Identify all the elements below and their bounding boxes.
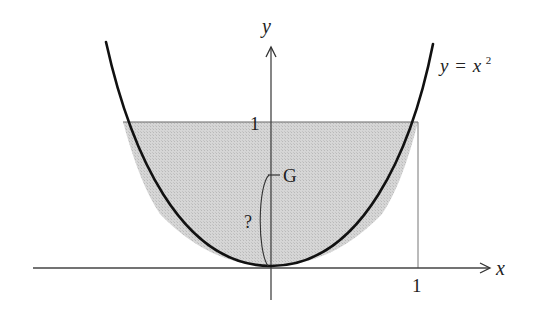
x-axis-label: x xyxy=(495,257,505,279)
y-tick-label: 1 xyxy=(250,113,260,134)
x-tick-label: 1 xyxy=(412,275,422,296)
curve-equation-label: y = x 2 xyxy=(438,54,491,76)
diagram-canvas: y x 1 1 G ? y = x 2 xyxy=(0,0,533,315)
unknown-height-label: ? xyxy=(244,212,252,232)
centroid-label: G xyxy=(283,165,297,186)
parabola-diagram: y x 1 1 G ? y = x 2 xyxy=(0,0,533,315)
y-axis-label: y xyxy=(260,15,271,38)
